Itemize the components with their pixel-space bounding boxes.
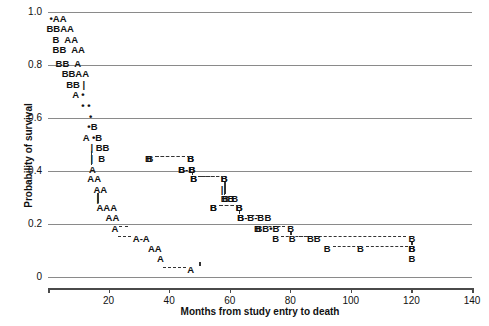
data-marker: B xyxy=(272,234,279,243)
data-marker: AAA xyxy=(96,203,117,212)
dashed-connector xyxy=(219,205,239,206)
gridline-y xyxy=(48,118,472,119)
survival-plot: Probability of survival Months from stud… xyxy=(0,0,489,326)
vertical-connector xyxy=(199,262,200,266)
data-marker: B xyxy=(408,254,415,263)
data-marker: B xyxy=(287,224,294,233)
dashed-connector xyxy=(333,246,360,247)
dashed-connector xyxy=(119,226,128,227)
data-marker: | B xyxy=(90,154,105,163)
x-tick-label: 80 xyxy=(270,295,310,306)
data-marker: AA xyxy=(148,244,162,253)
dashed-connector xyxy=(366,246,408,247)
data-marker: • xyxy=(89,112,92,121)
x-axis-cap-left xyxy=(48,288,50,293)
x-tick xyxy=(351,288,352,293)
y-tick-label: 1.0 xyxy=(8,6,42,17)
gridline-y xyxy=(48,12,472,13)
x-tick xyxy=(230,288,231,293)
data-marker: B-B xyxy=(178,165,195,174)
dashed-connector xyxy=(118,236,132,237)
data-marker: BB A xyxy=(56,59,82,68)
data-marker: A xyxy=(187,265,194,274)
y-tick-label: 0.4 xyxy=(8,165,42,176)
data-marker: B xyxy=(146,154,153,163)
data-marker: BB xyxy=(221,194,235,203)
data-marker: B xyxy=(210,203,217,212)
gridline-y xyxy=(48,277,472,278)
dashed-connector xyxy=(156,156,191,157)
dashed-connector xyxy=(163,267,186,268)
x-tick-label: 20 xyxy=(89,295,129,306)
data-marker: B xyxy=(324,244,331,253)
x-tick xyxy=(472,288,473,293)
x-tick xyxy=(109,288,110,293)
x-tick-label: 40 xyxy=(149,295,189,306)
x-axis-line xyxy=(48,288,472,290)
y-tick-label: 0.2 xyxy=(8,218,42,229)
vertical-connector xyxy=(91,151,92,165)
y-axis-title: Probability of survival xyxy=(23,76,34,236)
data-marker: AA xyxy=(87,174,101,183)
x-tick xyxy=(290,288,291,293)
y-tick-label: 0.8 xyxy=(8,59,42,70)
data-marker: B xyxy=(190,174,197,183)
y-tick-label: 0 xyxy=(8,271,42,282)
data-marker: A xyxy=(157,254,164,263)
data-marker: A •B xyxy=(83,133,102,142)
data-marker: BBAA xyxy=(46,24,73,33)
data-marker: BB AA xyxy=(53,45,85,54)
y-tick-label: 0.6 xyxy=(8,112,42,123)
data-marker: A xyxy=(112,224,119,233)
data-marker: AA xyxy=(93,185,107,194)
data-marker: | BB xyxy=(90,143,109,152)
data-marker: A xyxy=(89,165,96,174)
data-marker: B AA xyxy=(53,35,79,44)
data-marker: • • xyxy=(81,101,90,110)
data-marker: B-B-B xyxy=(237,213,264,222)
data-marker: BBAA xyxy=(62,69,89,78)
data-marker: BB•B xyxy=(255,224,279,233)
data-marker: A • xyxy=(72,90,84,99)
x-tick-label: 60 xyxy=(210,295,250,306)
gridline-y xyxy=(48,65,472,66)
data-marker: •AA xyxy=(50,14,67,23)
x-tick xyxy=(169,288,170,293)
data-marker: •B xyxy=(87,122,97,131)
x-tick-label: 140 xyxy=(452,295,489,306)
data-marker: BB xyxy=(307,234,321,243)
dashed-connector xyxy=(198,176,224,177)
x-tick-label: 120 xyxy=(391,295,431,306)
gridline-y xyxy=(48,171,472,172)
data-marker: AA xyxy=(106,213,120,222)
data-marker: B xyxy=(265,213,272,222)
data-marker: | xyxy=(221,185,224,194)
data-marker: B xyxy=(408,234,415,243)
x-tick xyxy=(411,288,412,293)
data-marker: A-A xyxy=(133,234,150,243)
vertical-connector xyxy=(225,182,226,194)
dashed-connector xyxy=(281,236,308,237)
data-marker: BB | xyxy=(66,80,85,89)
x-axis-title: Months from study entry to death xyxy=(120,306,400,317)
vertical-connector xyxy=(97,193,98,203)
x-tick-label: 100 xyxy=(331,295,371,306)
data-marker: B xyxy=(408,244,415,253)
